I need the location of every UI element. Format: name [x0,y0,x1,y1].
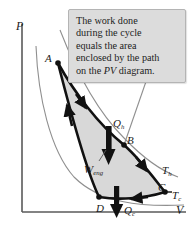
annotation-weng-sub: eng [93,169,103,176]
point-label-a: A [45,53,52,64]
axis-label-volume: V [176,204,183,216]
callout-line-2: during the cycle [76,27,179,39]
annotation-qc-sub: c [132,210,135,217]
annotation-qc-base: Q [124,204,132,216]
axis-label-pressure: P [16,20,23,32]
callout-line-3: equals the area [76,40,179,52]
annotation-weng-base: W [84,163,93,175]
callout-pv-italic: PV [104,65,116,76]
point-label-d: D [96,203,104,214]
point-marker-b [121,142,127,148]
callout-textbox: The work done during the cycle equals th… [68,9,186,83]
annotation-tc-sub: c [178,195,181,202]
annotation-weng: Weng [84,164,103,175]
callout-line-5-post: diagram. [116,65,154,76]
point-label-c: C [158,182,165,193]
point-marker-a [55,60,61,66]
point-marker-d [96,194,102,200]
callout-line-5-pre: on the [76,65,104,76]
annotation-qh: Qh [113,118,124,129]
annotation-th-sub: h [168,170,171,177]
annotation-qh-sub: h [121,123,124,130]
annotation-qc: Qc [124,205,135,216]
point-label-b: B [127,135,134,146]
annotation-qh-base: Q [113,117,121,129]
pv-diagram-figure: The work done during the cycle equals th… [0,0,194,234]
annotation-tc: Tc [172,190,181,201]
callout-line-5: on the PV diagram. [76,65,179,77]
callout-line-1: The work done [76,15,179,27]
annotation-th: Th [162,165,172,176]
callout-line-4: enclosed by the path [76,52,179,64]
